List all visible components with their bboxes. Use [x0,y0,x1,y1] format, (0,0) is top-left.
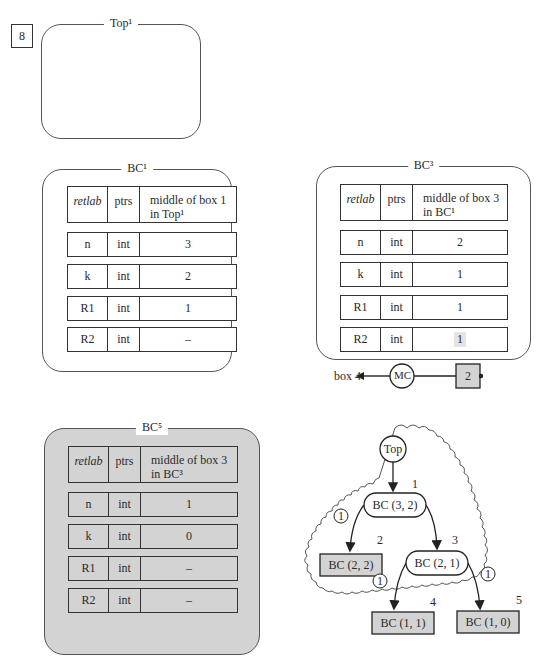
var-type: int [381,328,413,351]
var-type: int [108,233,140,256]
var-row-k: k int 1 [340,262,508,287]
var-name: n [68,233,108,256]
var-name: R2 [341,328,381,351]
call-target-label: box 4 [334,369,361,384]
var-name: R1 [69,557,109,580]
var-name: R1 [68,297,108,320]
var-value: 1 [140,297,236,320]
col-value: middle of box 3in BC³ [141,447,237,482]
frame-title: BC¹ [121,161,153,176]
var-type: int [108,297,140,320]
col-retlab: retlab [68,187,108,222]
var-type: int [381,263,413,286]
var-value: 3 [140,233,236,256]
var-name: k [69,525,109,548]
var-row-r1: R1 int 1 [67,296,237,321]
header-row: retlab ptrs middle of box 1in Top¹ [67,186,237,223]
var-value: 0 [141,525,237,548]
step-number: 8 [19,29,25,44]
step-number-box: 8 [11,24,33,48]
var-row-r1: R1 int – [68,556,238,581]
svg-text:3: 3 [452,533,458,547]
var-value: – [140,328,236,351]
svg-text:1: 1 [338,509,344,523]
var-row-n: n int 3 [67,232,237,257]
col-ptrs: ptrs [381,185,413,220]
frame-bc5: BC⁵ retlab ptrs middle of box 3in BC³ n … [44,428,260,655]
var-value: 2 [413,231,507,254]
frame-top1: Top¹ [41,24,201,139]
var-value: 1 [413,263,507,286]
frame-title: Top¹ [104,16,138,31]
svg-text:1: 1 [485,567,491,581]
var-row-r2: R2 int – [67,327,237,352]
var-row-n: n int 2 [340,230,508,255]
col-retlab: retlab [341,185,381,220]
var-type: int [109,557,141,580]
var-value: – [141,557,237,580]
var-name: k [341,263,381,286]
var-type: int [109,493,141,516]
frame-bc3: BC³ retlab ptrs middle of box 3in BC¹ n … [316,166,531,360]
var-name: n [341,231,381,254]
svg-text:5: 5 [516,593,522,607]
svg-text:Top: Top [384,442,403,456]
svg-text:4: 4 [430,595,436,609]
var-name: n [69,493,109,516]
var-type: int [108,328,140,351]
var-type: int [381,296,413,319]
col-ptrs: ptrs [108,187,140,222]
var-value: 1 [141,493,237,516]
col-value: middle of box 1in Top¹ [140,187,236,222]
var-type: int [381,231,413,254]
var-name: R2 [68,328,108,351]
var-name: R1 [341,296,381,319]
var-type: int [109,525,141,548]
col-ptrs: ptrs [109,447,141,482]
mc-label: MC [394,369,410,381]
svg-text:BC (1, 0): BC (1, 0) [466,615,511,629]
svg-text:BC (2, 2): BC (2, 2) [329,558,374,572]
call-tree: Top 1 BC (3, 2) 1 2 3 BC (2, 2) BC (2, 1… [300,420,550,662]
svg-text:BC (1, 1): BC (1, 1) [381,616,426,630]
var-row-n: n int 1 [68,492,238,517]
var-row-k: k int 0 [68,524,238,549]
header-row: retlab ptrs middle of box 3in BC³ [68,446,238,483]
frame-title: BC³ [408,158,440,173]
var-row-r1: R1 int 1 [340,295,508,320]
var-name: R2 [69,589,109,612]
var-value: – [141,589,237,612]
var-name: k [68,265,108,288]
var-value: 1 [413,328,507,351]
var-type: int [109,589,141,612]
svg-text:1: 1 [377,574,383,588]
svg-text:BC (2, 1): BC (2, 1) [415,556,460,570]
var-value: 2 [140,265,236,288]
var-type: int [108,265,140,288]
frame-title: BC⁵ [136,420,168,435]
col-value: middle of box 3in BC¹ [413,185,507,220]
var-row-r2: R2 int 1 [340,327,508,352]
col-retlab: retlab [69,447,109,482]
svg-text:1: 1 [412,477,418,491]
var-row-r2: R2 int – [68,588,238,613]
var-row-k: k int 2 [67,264,237,289]
frame-bc1: BC¹ retlab ptrs middle of box 1in Top¹ n… [42,169,232,372]
header-row: retlab ptrs middle of box 3in BC¹ [340,184,508,221]
counter-value: 2 [456,369,480,384]
svg-text:BC (3, 2): BC (3, 2) [373,498,418,512]
var-value: 1 [413,296,507,319]
svg-text:2: 2 [377,533,383,547]
